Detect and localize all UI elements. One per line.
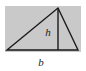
height-label: h xyxy=(45,26,51,38)
triangle-area-diagram: h b xyxy=(0,0,86,71)
gray-panel xyxy=(5,6,81,52)
diagram-canvas: h b xyxy=(0,0,86,71)
base-label: b xyxy=(38,56,44,68)
